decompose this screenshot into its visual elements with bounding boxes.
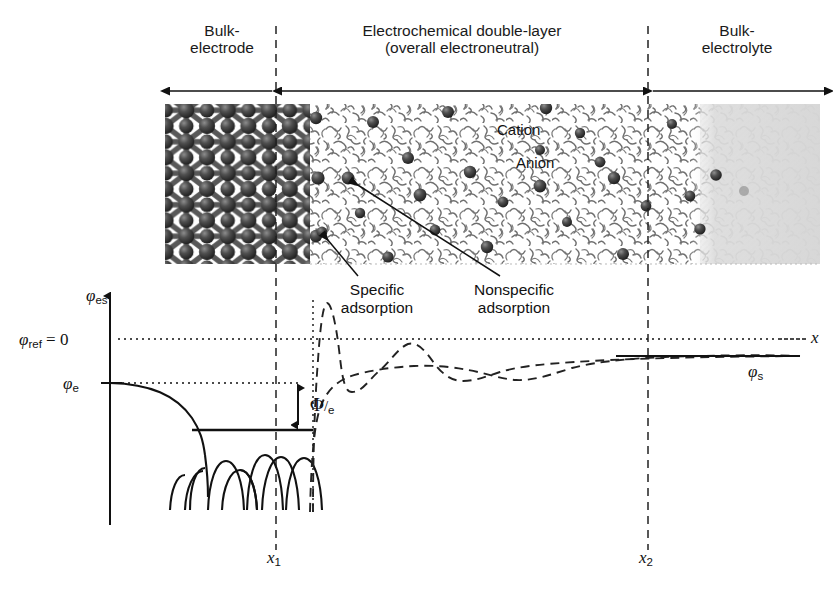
x2-symbol: x [639,548,647,567]
specific-adsorption-curve [313,303,800,512]
tick-label-x1: x1 [267,548,281,569]
y-axis-label: φes [86,286,108,307]
region-label-line1: Bulk- [172,22,272,39]
phi-e-symbol: φ [63,374,72,393]
x2-subscript: 2 [647,556,653,568]
x1-subscript: 1 [275,556,281,568]
electrode-lattice [165,104,310,264]
region-label-line1: Bulk- [686,22,788,39]
y-axis-symbol: φ [86,286,95,305]
region-label-bulk-electrode: Bulk- electrode [172,22,272,57]
tick-label-x2: x2 [639,548,653,569]
phi-s-label: φs [748,362,763,383]
annotation-line2: adsorption [455,299,573,317]
work-function-label: Φ/e [310,394,334,417]
reference-potential-label: φref = 0 [19,330,68,351]
work-function-subscript: e [328,404,334,416]
specific-adsorption-label: Specific adsorption [327,281,427,317]
electrolyte-panel [310,102,825,264]
cation-label: Cation [497,122,540,139]
x1-symbol: x [267,548,275,567]
annotation-line1: Nonspecific [455,281,573,299]
lattice-wall-left [205,455,208,497]
region-label-line1: Electrochemical double-layer [292,22,632,39]
phi-s-symbol: φ [748,362,757,381]
phi-ref-symbol: φ [19,330,28,349]
phi-ref-subscript: ref [28,338,41,350]
annotation-line2: adsorption [327,299,427,317]
nonspecific-adsorption-label: Nonspecific adsorption [455,281,573,317]
phi-s-subscript: s [757,370,763,382]
region-label-bulk-electrolyte: Bulk- electrolyte [686,22,788,57]
region-label-line2: electrolyte [686,39,788,56]
y-axis-subscript: es [95,294,107,306]
annotation-line1: Specific [327,281,427,299]
nonspecific-adsorption-curve [310,355,800,512]
figure-canvas: Bulk- electrode Electrochemical double-l… [0,0,833,596]
phi-ref-equals-zero: = 0 [42,330,69,349]
region-label-double-layer: Electrochemical double-layer (overall el… [292,22,632,57]
region-label-line2: electrode [172,39,272,56]
phi-e-label: φe [63,374,79,395]
phi-e-subscript: e [72,382,78,394]
image-potential-curve [110,383,205,455]
anion-label: Anion [516,155,554,172]
region-label-line2: (overall electroneutral) [292,39,632,56]
work-function-symbol: Φ [310,394,324,415]
x-axis-label: x [811,328,819,347]
